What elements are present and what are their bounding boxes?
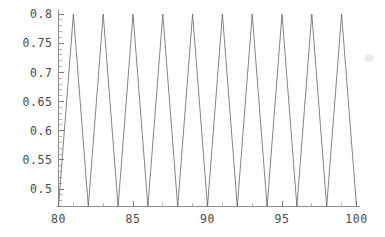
y-tick-label: 0.6 [30,124,53,138]
x-tick-label: 80 [51,212,66,226]
x-tick-label: 95 [274,212,289,226]
y-tick-label: 0.65 [22,95,52,109]
x-tick-label: 100 [345,212,368,226]
y-tick-label: 0.8 [30,7,53,21]
y-tick-label: 0.7 [30,66,53,80]
x-tick-label: 85 [125,212,140,226]
y-tick-label: 0.55 [22,153,52,167]
chart-figure: 0.50.550.60.650.70.750.8 80859095100 [0,0,385,237]
scan-artifact-speck [364,54,374,62]
y-tick-label: 0.5 [30,182,53,196]
y-tick-label: 0.75 [22,36,52,50]
plot-svg: 0.50.550.60.650.70.750.8 80859095100 [0,0,385,237]
x-tick-label: 90 [200,212,215,226]
